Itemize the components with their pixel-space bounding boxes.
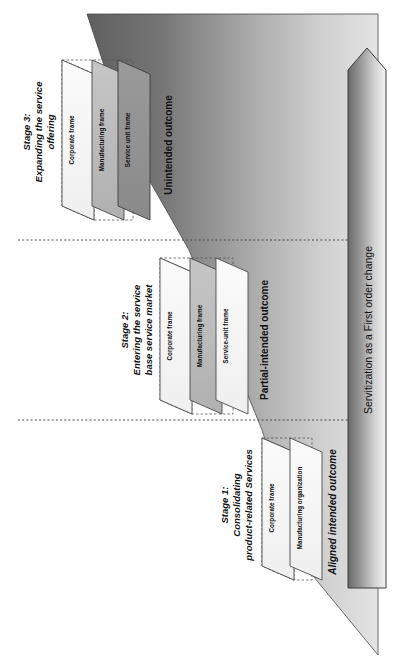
stage-2-title-line2: Entering the service xyxy=(131,284,142,376)
stage-2-title-line3: base service market xyxy=(143,284,154,376)
stage-3-outcome: Unintended outcome xyxy=(163,95,174,195)
stage-1-panel-label-2: Manufacturing organization xyxy=(296,467,304,550)
stage-2-panel-service xyxy=(216,258,248,414)
stage-3-title-line3: offering xyxy=(45,114,56,149)
stage-2-box xyxy=(160,258,248,414)
stage-3-panel-corporate xyxy=(62,60,94,220)
stage-1-panel-label-1: Corporate frame xyxy=(268,483,276,532)
stage-3-panel-label-1: Corporate frame xyxy=(68,115,76,164)
stage-3-panel-service xyxy=(118,60,150,220)
stage-1-panel-manufacturing xyxy=(290,438,322,580)
stage-3-title-line1: Stage 3: xyxy=(21,114,32,151)
stage-2-panel-corporate xyxy=(160,258,192,414)
stage-3-panel-label-2: Manufacturing frame xyxy=(98,108,106,171)
servitization-diagram: Servitization as a First order change Co… xyxy=(0,0,409,665)
diagram-canvas: Servitization as a First order change Co… xyxy=(0,0,409,665)
stage-2-panel-label-2: Manufacturing frame xyxy=(196,304,204,367)
stage-1-title-line2: Consolidating xyxy=(231,473,242,537)
stage-2-group[interactable]: Corporate frame Manufacturing frame Serv… xyxy=(119,258,270,414)
stage-1-outcome: Aligned intended outcome xyxy=(327,449,338,576)
stage-2-panel-label-1: Corporate frame xyxy=(166,311,174,360)
stage-1-title-line3: product-related Services xyxy=(243,449,254,561)
stage-2-title-line1: Stage 2: xyxy=(119,312,130,349)
stage-1-title-line1: Stage 1: xyxy=(219,487,230,524)
main-arrow: Servitization as a First order change xyxy=(348,48,386,588)
stage-3-panel-label-3: Service unit frame xyxy=(124,112,131,167)
stage-3-box xyxy=(62,60,150,220)
stage-1-panel-corporate xyxy=(262,438,294,580)
stage-2-panel-label-3: Service-unit frame xyxy=(222,308,229,363)
stage-1-group[interactable]: Corporate frame Manufacturing organizati… xyxy=(219,438,338,580)
main-arrow-label: Servitization as a First order change xyxy=(362,246,374,414)
stage-3-title-line2: Expanding the service xyxy=(33,81,44,183)
stage-2-outcome: Partial-intended outcome xyxy=(259,280,270,400)
